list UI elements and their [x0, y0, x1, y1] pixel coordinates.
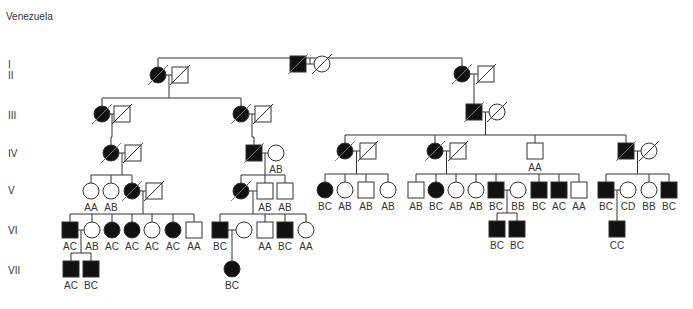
- female-individual: AB: [268, 145, 284, 175]
- genotype-label: BB: [642, 201, 656, 212]
- male-individual: BC: [277, 222, 293, 252]
- female-individual: [452, 64, 472, 84]
- male-individual: AB: [408, 182, 424, 212]
- circle-icon: [144, 222, 160, 238]
- male-individual: AC: [551, 182, 567, 212]
- genotype-label: BC: [318, 201, 332, 212]
- male-individual: BC: [661, 182, 677, 212]
- female-individual: [312, 54, 332, 74]
- square-icon: [551, 182, 567, 198]
- circle-icon: [103, 183, 119, 199]
- female-individual: [101, 143, 121, 163]
- genotype-label: AB: [104, 202, 118, 213]
- genotype-label: AC: [552, 201, 566, 212]
- pedigree-canvas: Venezuela IIIIIIIVVVIVII ABAAAAABABABBCA…: [0, 0, 693, 309]
- generation-labels: IIIIIIIVVVIVII: [8, 59, 20, 276]
- circle-icon: [620, 182, 636, 198]
- genotype-label: AB: [269, 164, 283, 175]
- male-individual: BC: [509, 221, 525, 251]
- genotype-label: BC: [84, 280, 98, 291]
- square-icon: [527, 143, 543, 159]
- genotype-label: AA: [258, 241, 272, 252]
- female-individual: [122, 181, 142, 201]
- male-individual: AA: [527, 143, 543, 173]
- male-individual: BC: [488, 182, 504, 212]
- genotype-label: AC: [145, 241, 159, 252]
- circle-icon: [268, 145, 284, 161]
- female-individual: AB: [337, 182, 353, 212]
- male-individual: [144, 181, 164, 201]
- genotype-label: AB: [409, 201, 423, 212]
- male-individual: AC: [62, 222, 78, 252]
- female-individual: [335, 141, 355, 161]
- female-individual: AB: [468, 182, 484, 212]
- square-icon: [257, 222, 273, 238]
- square-icon: [212, 222, 228, 238]
- figure-title: Venezuela: [6, 11, 53, 22]
- circle-icon: [298, 222, 314, 238]
- male-individual: [112, 104, 132, 124]
- circle-icon: [236, 222, 252, 238]
- female-individual: AB: [380, 182, 396, 212]
- square-icon: [408, 182, 424, 198]
- genotype-label: AB: [381, 201, 395, 212]
- square-icon: [358, 182, 374, 198]
- male-individual: [123, 143, 143, 163]
- generation-label: VI: [8, 225, 17, 236]
- circle-icon: [380, 182, 396, 198]
- genotype-label: CC: [610, 240, 624, 251]
- square-icon: [609, 221, 625, 237]
- square-icon: [257, 183, 273, 199]
- male-individual: BC: [598, 182, 614, 212]
- genotype-label: BC: [662, 201, 676, 212]
- female-individual: AC: [165, 222, 181, 252]
- genotype-label: AB: [258, 202, 272, 213]
- genotype-label: BC: [490, 240, 504, 251]
- female-individual: AA: [298, 222, 314, 252]
- circle-icon: [448, 182, 464, 198]
- square-icon: [62, 222, 78, 238]
- generation-label: III: [8, 110, 16, 121]
- genotype-label: AC: [125, 241, 139, 252]
- genotype-label: AB: [278, 202, 292, 213]
- circle-icon: [224, 261, 240, 277]
- genotype-label: BC: [510, 240, 524, 251]
- square-icon: [489, 221, 505, 237]
- male-individual: BC: [83, 261, 99, 291]
- female-individual: [148, 65, 168, 85]
- circle-icon: [165, 222, 181, 238]
- square-icon: [83, 261, 99, 277]
- genotype-label: BC: [599, 201, 613, 212]
- square-icon: [277, 222, 293, 238]
- square-icon: [571, 182, 587, 198]
- generation-label: VII: [8, 265, 20, 276]
- male-individual: [464, 102, 484, 122]
- circle-icon: [84, 222, 100, 238]
- circle-icon: [468, 182, 484, 198]
- circle-icon: [510, 182, 526, 198]
- genotype-label: AC: [64, 280, 78, 291]
- square-icon: [531, 182, 547, 198]
- genotype-label: AA: [187, 241, 201, 252]
- genotype-label: CD: [621, 201, 635, 212]
- female-individual: BB: [510, 182, 526, 212]
- circle-icon: [104, 222, 120, 238]
- genotype-label: AA: [299, 241, 313, 252]
- male-individual: AA: [186, 222, 202, 252]
- male-individual: CC: [609, 221, 625, 251]
- female-individual: AC: [124, 222, 140, 252]
- generation-label: IV: [8, 148, 18, 159]
- circle-icon: [428, 182, 444, 198]
- male-individual: [170, 65, 190, 85]
- male-individual: [616, 141, 636, 161]
- square-icon: [277, 183, 293, 199]
- square-icon: [509, 221, 525, 237]
- female-individual: CD: [620, 182, 636, 212]
- square-icon: [488, 182, 504, 198]
- male-individual: AC: [63, 261, 79, 291]
- female-individual: BC: [317, 182, 333, 212]
- female-individual: [487, 102, 507, 122]
- genotype-label: AB: [338, 201, 352, 212]
- female-individual: [639, 141, 659, 161]
- circle-icon: [124, 222, 140, 238]
